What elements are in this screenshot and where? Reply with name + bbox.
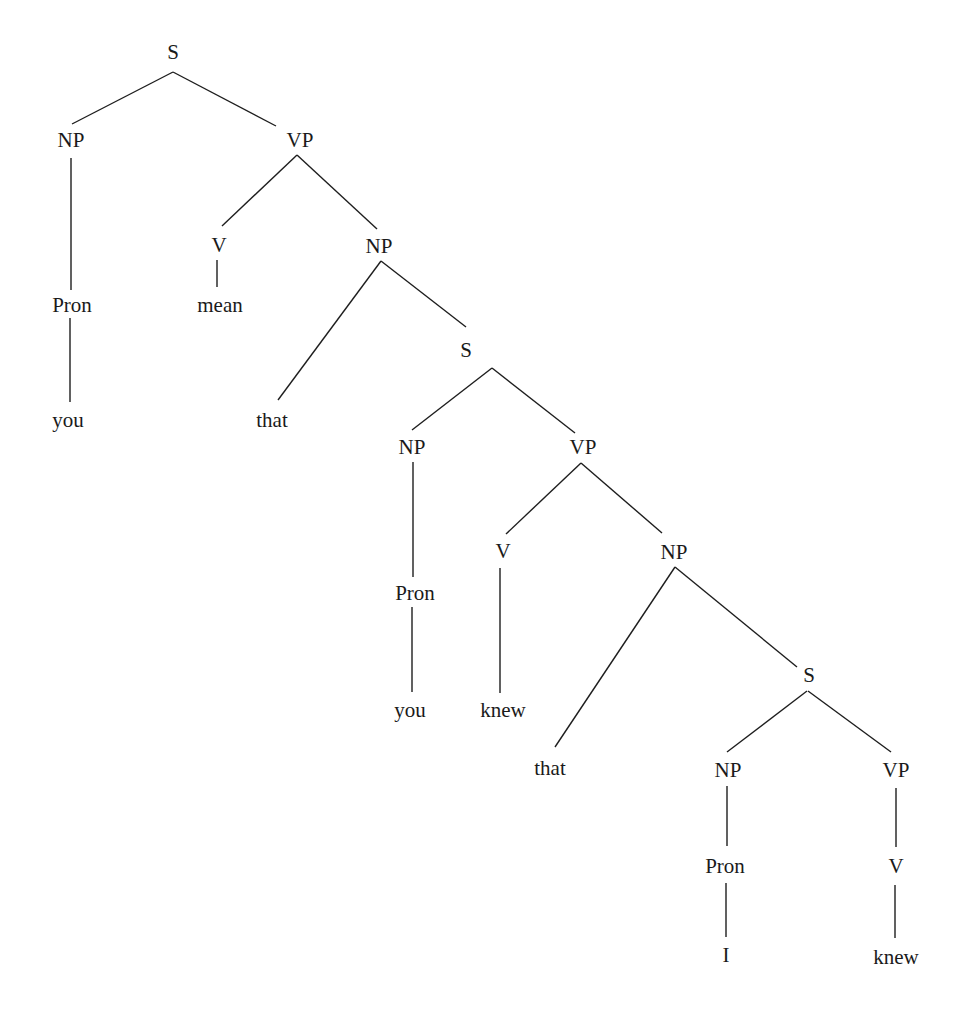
tree-node-pron3: Pron — [705, 856, 745, 877]
tree-node-you1: you — [52, 410, 84, 431]
tree-node-vp3: VP — [883, 760, 910, 781]
tree-edge-s1-np1 — [72, 72, 173, 124]
tree-node-pron2: Pron — [395, 583, 435, 604]
tree-edge-np2-s2 — [381, 261, 466, 327]
tree-edge-vp1-np2 — [297, 155, 377, 229]
tree-edge-vp2-np4 — [581, 463, 662, 533]
tree-edge-s1-vp1 — [173, 72, 276, 126]
tree-edge-vp2-v2 — [506, 463, 581, 534]
tree-edge-vp1-v1 — [222, 155, 297, 226]
tree-edge-np4-s3 — [675, 567, 797, 667]
tree-node-that1: that — [256, 410, 288, 431]
tree-node-np1: NP — [58, 130, 85, 151]
tree-node-np3: NP — [399, 437, 426, 458]
tree-node-vp1: VP — [287, 130, 314, 151]
tree-node-knew1: knew — [480, 700, 526, 721]
tree-node-v2: V — [495, 541, 510, 562]
tree-node-s2: S — [460, 340, 472, 361]
tree-node-v3: V — [888, 856, 903, 877]
tree-edge-np4-that2 — [555, 567, 675, 747]
tree-node-i: I — [723, 945, 730, 966]
tree-node-s1: S — [167, 42, 179, 63]
syntax-tree-edges — [0, 0, 969, 1014]
tree-edge-s3-np5 — [727, 691, 807, 752]
tree-node-vp2: VP — [570, 437, 597, 458]
tree-node-knew2: knew — [873, 947, 919, 968]
tree-edge-s2-np3 — [412, 368, 492, 430]
tree-edge-np2-that1 — [278, 261, 381, 400]
tree-edge-s3-vp3 — [808, 691, 891, 752]
tree-node-you2: you — [394, 700, 426, 721]
tree-node-np2: NP — [366, 236, 393, 257]
tree-node-pron1: Pron — [52, 295, 92, 316]
tree-node-np4: NP — [661, 542, 688, 563]
tree-edge-s2-vp2 — [492, 368, 575, 433]
tree-node-mean: mean — [197, 295, 242, 316]
tree-node-that2: that — [534, 758, 566, 779]
tree-node-s3: S — [803, 665, 815, 686]
tree-node-np5: NP — [715, 760, 742, 781]
tree-node-v1: V — [211, 235, 226, 256]
